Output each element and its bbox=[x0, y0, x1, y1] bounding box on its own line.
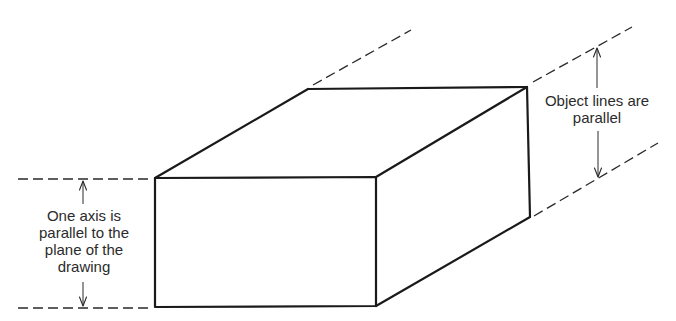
box-object bbox=[155, 87, 530, 307]
top-right-receding-extension-line bbox=[533, 27, 632, 82]
left-label: One axis is parallel to the plane of the… bbox=[39, 207, 129, 275]
bottom-right-receding-extension-line bbox=[534, 143, 658, 216]
left-label-line-1: One axis is bbox=[47, 207, 121, 224]
oblique-box-diagram: One axis is parallel to the plane of the… bbox=[0, 0, 676, 321]
front-face bbox=[155, 177, 376, 307]
top-face-back-edge bbox=[308, 87, 527, 89]
top-face-right-receding-edge bbox=[376, 87, 527, 177]
left-label-line-2: parallel to the bbox=[39, 224, 129, 241]
left-label-line-4: drawing bbox=[58, 258, 111, 275]
right-label: Object lines are parallel bbox=[545, 92, 649, 126]
top-left-receding-extension-line bbox=[313, 30, 411, 85]
right-label-line-1: Object lines are bbox=[545, 92, 649, 109]
extension-lines bbox=[18, 27, 658, 308]
right-face-back-edge bbox=[527, 87, 530, 217]
left-label-line-3: plane of the bbox=[45, 241, 123, 258]
top-face-left-receding-edge bbox=[155, 89, 308, 178]
right-face-bottom-receding-edge bbox=[376, 217, 530, 306]
right-label-line-2: parallel bbox=[573, 109, 621, 126]
